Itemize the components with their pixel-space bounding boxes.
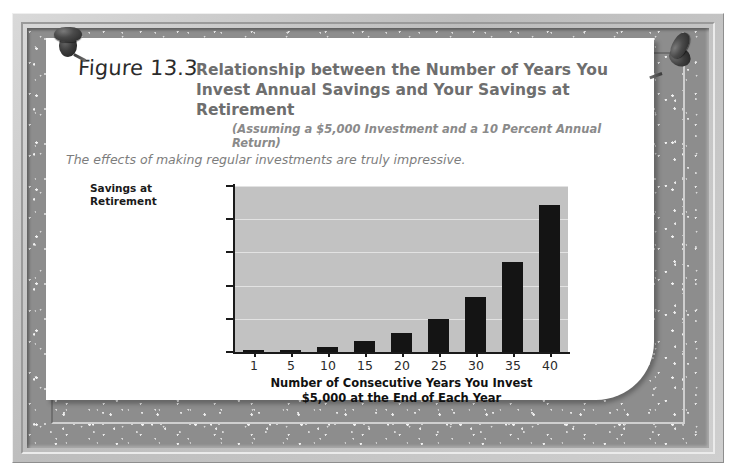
y-axis-tick <box>226 251 233 253</box>
x-axis-tick <box>402 352 404 357</box>
y-axis-tick-labels: $0$500,000$1,000,000$1,500,000$2,000,000… <box>0 0 222 476</box>
y-axis-tick <box>226 185 233 187</box>
x-axis-tick-label: 15 <box>357 358 373 373</box>
x-axis-tick <box>328 352 330 357</box>
x-axis-tick <box>550 352 552 357</box>
y-axis-tick <box>226 351 233 353</box>
x-axis-tick-label: 1 <box>250 358 258 373</box>
figure-title: Relationship between the Number of Years… <box>196 60 626 120</box>
y-axis-tick <box>226 285 233 287</box>
pushpin-needle <box>73 53 86 62</box>
x-axis-tick-label: 20 <box>394 358 410 373</box>
chart-bar <box>391 333 412 352</box>
chart-gridline <box>235 219 568 220</box>
x-axis-tick-label: 35 <box>505 358 521 373</box>
x-axis-tick <box>254 352 256 357</box>
x-axis-tick-label: 10 <box>320 358 336 373</box>
chart-bar <box>428 319 449 352</box>
chart-bar <box>502 262 523 352</box>
pushpin-head <box>54 27 82 42</box>
chart-bar <box>465 297 486 352</box>
pushpin-icon-right <box>660 38 700 82</box>
x-axis-tick <box>291 352 293 357</box>
chart-bar <box>354 341 375 352</box>
figure-title-line-1: Relationship between the Number of Years… <box>196 60 626 80</box>
x-axis-tick <box>476 352 478 357</box>
x-axis-tick-label: 30 <box>468 358 484 373</box>
chart-gridline <box>235 252 568 253</box>
pushpin-icon-left <box>48 27 88 71</box>
chart-gridline <box>235 186 568 187</box>
figure-subtitle: (Assuming a $5,000 Investment and a 10 P… <box>232 122 632 150</box>
figure-title-line-2: Invest Annual Savings and Your Savings a… <box>196 80 626 120</box>
x-axis-tick-label: 5 <box>287 358 295 373</box>
chart-bar <box>539 205 560 352</box>
x-axis-tick-label: 40 <box>542 358 558 373</box>
x-axis-tick <box>439 352 441 357</box>
x-axis-tick <box>513 352 515 357</box>
figure-page: Figure 13.3 Relationship between the Num… <box>0 0 736 476</box>
x-axis-title-line-2: $5,000 at the End of Each Year <box>235 391 568 406</box>
x-axis-title-line-1: Number of Consecutive Years You Invest <box>235 376 568 391</box>
x-axis-tick-label: 25 <box>431 358 447 373</box>
x-axis-title: Number of Consecutive Years You Invest $… <box>235 376 568 406</box>
chart-plot-area <box>235 186 568 352</box>
x-axis-tick <box>365 352 367 357</box>
y-axis-line <box>233 184 235 354</box>
y-axis-tick <box>226 218 233 220</box>
y-axis-tick <box>226 318 233 320</box>
